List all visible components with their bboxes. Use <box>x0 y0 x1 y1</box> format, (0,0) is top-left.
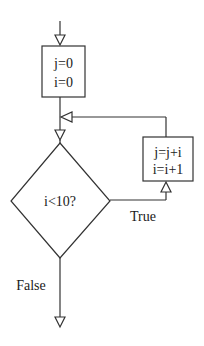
condition-label: i<10? <box>44 194 76 209</box>
init-line-1: j=0 <box>53 56 73 71</box>
flowchart-canvas: j=0 i=0 i<10? j=j+i i=i+1 True False <box>0 0 204 346</box>
init-line-2: i=0 <box>54 75 73 90</box>
body-line-1: j=j+i <box>153 145 182 160</box>
body-line-2: i=i+1 <box>153 162 184 177</box>
true-branch-arrowhead-icon <box>161 182 171 192</box>
exit-arrowhead-icon <box>55 317 65 327</box>
entry-arrowhead-icon <box>55 35 65 45</box>
loop-back-arrowhead-icon <box>61 112 72 122</box>
condition-arrowhead-icon <box>55 130 65 140</box>
false-label: False <box>16 278 46 293</box>
true-label: True <box>130 209 156 224</box>
